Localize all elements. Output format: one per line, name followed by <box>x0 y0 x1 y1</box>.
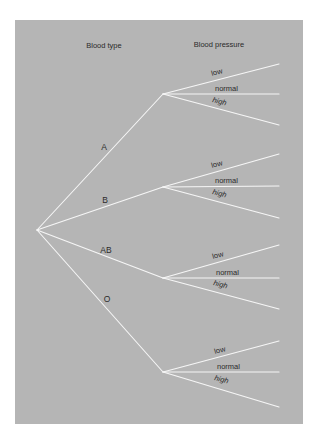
edge-B-normal <box>163 186 279 187</box>
edge-root-A <box>37 94 163 230</box>
branch-label-A: A <box>101 142 107 152</box>
group-O: low normal high <box>163 341 279 407</box>
label-AB-low: low <box>211 249 225 261</box>
branch-label-O: O <box>104 294 111 304</box>
header-blood-pressure: Blood pressure <box>194 40 244 49</box>
label-AB-normal: normal <box>216 268 239 277</box>
label-A-high: high <box>211 95 227 107</box>
edge-root-B <box>37 187 163 230</box>
group-B: low normal high <box>163 154 279 218</box>
label-A-normal: normal <box>215 84 238 93</box>
branch-label-B: B <box>102 195 108 205</box>
tree-diagram: Blood type Blood pressure A B AB O low n… <box>0 0 316 442</box>
label-AB-high: high <box>212 278 228 290</box>
label-O-high: high <box>213 373 229 385</box>
label-B-high: high <box>211 187 227 199</box>
label-B-normal: normal <box>215 176 238 185</box>
label-B-low: low <box>210 158 224 170</box>
label-A-low: low <box>210 66 224 78</box>
group-A: low normal high <box>163 64 279 125</box>
header-blood-type: Blood type <box>86 41 121 50</box>
label-O-normal: normal <box>217 362 240 371</box>
branch-label-AB: AB <box>100 245 112 255</box>
group-AB: low normal high <box>163 245 279 309</box>
label-O-low: low <box>213 344 227 356</box>
